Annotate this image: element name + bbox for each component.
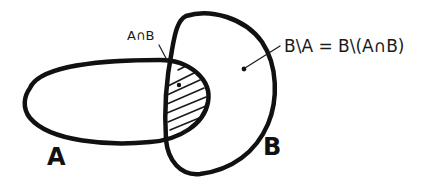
- set-b-label: B: [263, 133, 281, 161]
- difference-label: B\A = B\(A∩B): [284, 36, 404, 56]
- set-a-outline: [25, 60, 209, 143]
- venn-diagram: A∩B B\A = B\(A∩B) A B: [0, 0, 428, 190]
- intersection-label: A∩B: [127, 28, 154, 43]
- set-b-outline: [165, 13, 275, 174]
- set-a-label: A: [47, 143, 66, 171]
- intersection-point: [177, 83, 181, 87]
- difference-leader-line: [245, 46, 280, 68]
